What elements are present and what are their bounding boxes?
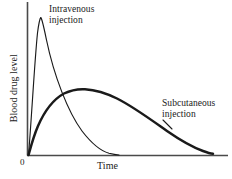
y-axis-label: Blood drug level: [9, 36, 20, 141]
annotation-subcutaneous-line1: Subcutaneous: [162, 98, 215, 109]
annotation-intravenous-line2: injection: [49, 15, 94, 26]
curve-intravenous: [29, 18, 120, 156]
x-axis-label: Time: [97, 161, 118, 172]
annotation-intravenous: Intravenous injection: [49, 4, 94, 25]
origin-tick-label: 0: [20, 157, 25, 168]
annotation-intravenous-line1: Intravenous: [49, 4, 94, 15]
pharmacokinetics-chart: Intravenous injection Subcutaneous injec…: [0, 0, 232, 179]
annotation-subcutaneous-line2: injection: [162, 109, 215, 120]
annotation-subcutaneous: Subcutaneous injection: [162, 98, 215, 119]
plot-area: [0, 0, 232, 179]
